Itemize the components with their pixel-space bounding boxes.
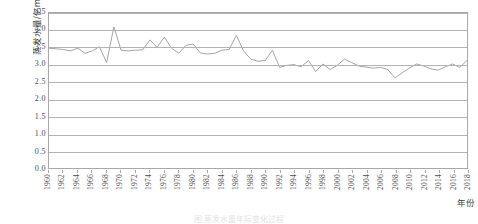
x-axis-tick-label: 1982 — [202, 174, 212, 208]
x-axis-tick-label: 1994 — [289, 174, 299, 208]
x-axis-tick-label: 1974 — [144, 174, 154, 208]
data-series-line — [49, 13, 467, 168]
y-axis-tick-label: 4.5 — [16, 8, 46, 16]
x-axis-tick-mark — [222, 170, 223, 173]
gridline — [49, 135, 467, 136]
x-axis-tick-label: 1976 — [159, 174, 169, 208]
y-axis-tick-label: 1.5 — [16, 113, 46, 121]
x-axis-tick-mark — [48, 170, 49, 173]
x-axis-tick-mark — [91, 170, 92, 173]
x-axis-tick-label: 1990 — [260, 174, 270, 208]
y-axis-tick-label: 2.5 — [16, 78, 46, 86]
y-axis-tick-label: 1.0 — [16, 130, 46, 138]
x-axis-tick-mark — [135, 170, 136, 173]
x-axis-tick-label: 1988 — [246, 174, 256, 208]
x-axis-tick-mark — [367, 170, 368, 173]
x-axis-tick-mark — [62, 170, 63, 173]
x-axis-tick-label: 1998 — [318, 174, 328, 208]
gridline — [49, 117, 467, 118]
x-axis-tick-label: 2006 — [376, 174, 386, 208]
x-axis-tick-label: 1996 — [304, 174, 314, 208]
x-axis-tick-label: 2004 — [362, 174, 372, 208]
series-polyline — [49, 27, 467, 78]
x-axis-tick-mark — [178, 170, 179, 173]
evaporation-line-chart: 蒸发水量/亿m3 0.00.51.01.52.02.53.03.54.04.5 … — [0, 0, 478, 224]
gridline — [49, 152, 467, 153]
gridline — [49, 30, 467, 31]
figure-caption: 图 蒸发水量年际变化过程 — [0, 213, 478, 224]
plot-area — [48, 12, 468, 169]
y-axis-tick-label: 2.0 — [16, 95, 46, 103]
y-axis-tick-label: 4.0 — [16, 25, 46, 33]
x-axis-tick-mark — [425, 170, 426, 173]
x-axis-tick-mark — [193, 170, 194, 173]
x-axis-tick-mark — [439, 170, 440, 173]
x-axis-tick-mark — [309, 170, 310, 173]
x-axis-tick-mark — [251, 170, 252, 173]
x-axis-tick-mark — [164, 170, 165, 173]
y-axis-tick-label: 3.0 — [16, 60, 46, 68]
x-axis-tick-mark — [149, 170, 150, 173]
x-axis-tick-mark — [120, 170, 121, 173]
x-axis-tick-mark — [410, 170, 411, 173]
x-axis-tick-label: 1978 — [173, 174, 183, 208]
x-axis-tick-label: 1984 — [217, 174, 227, 208]
x-axis-tick-mark — [468, 170, 469, 173]
x-axis-tick-label: 1992 — [275, 174, 285, 208]
gridline — [49, 100, 467, 101]
x-axis-tick-labels: 1960196219641966196819701972197419761978… — [48, 170, 468, 206]
gridline — [49, 82, 467, 83]
y-axis-tick-labels: 0.00.51.01.52.02.53.03.54.04.5 — [16, 0, 46, 224]
x-axis-tick-mark — [77, 170, 78, 173]
x-axis-tick-mark — [280, 170, 281, 173]
x-axis-tick-label: 1960 — [43, 174, 53, 208]
y-axis-tick-label: 0.0 — [16, 165, 46, 173]
x-axis-tick-label: 1986 — [231, 174, 241, 208]
x-axis-tick-label: 2008 — [391, 174, 401, 208]
x-axis-tick-label: 1972 — [130, 174, 140, 208]
x-axis-tick-label: 1966 — [86, 174, 96, 208]
x-axis-tick-label: 1964 — [72, 174, 82, 208]
x-axis-tick-label: 2012 — [420, 174, 430, 208]
x-axis-tick-mark — [106, 170, 107, 173]
x-axis-tick-label: 1962 — [57, 174, 67, 208]
x-axis-tick-label: 2000 — [333, 174, 343, 208]
x-axis-tick-mark — [207, 170, 208, 173]
x-axis-tick-mark — [396, 170, 397, 173]
x-axis-tick-label: 2010 — [405, 174, 415, 208]
x-axis-tick-mark — [352, 170, 353, 173]
x-axis-tick-mark — [381, 170, 382, 173]
x-axis-title: 年份 — [457, 196, 475, 208]
gridline — [49, 13, 467, 14]
y-axis-tick-label: 0.5 — [16, 148, 46, 156]
x-axis-tick-mark — [454, 170, 455, 173]
x-axis-tick-mark — [338, 170, 339, 173]
x-axis-tick-label: 1980 — [188, 174, 198, 208]
x-axis-tick-label: 2014 — [434, 174, 444, 208]
gridline — [49, 65, 467, 66]
x-axis-tick-label: 2002 — [347, 174, 357, 208]
x-axis-tick-mark — [236, 170, 237, 173]
x-axis-tick-mark — [265, 170, 266, 173]
x-axis-tick-mark — [323, 170, 324, 173]
x-axis-tick-label: 1968 — [101, 174, 111, 208]
gridline — [49, 47, 467, 48]
y-axis-tick-label: 3.5 — [16, 43, 46, 51]
x-axis-tick-mark — [294, 170, 295, 173]
x-axis-tick-label: 1970 — [115, 174, 125, 208]
